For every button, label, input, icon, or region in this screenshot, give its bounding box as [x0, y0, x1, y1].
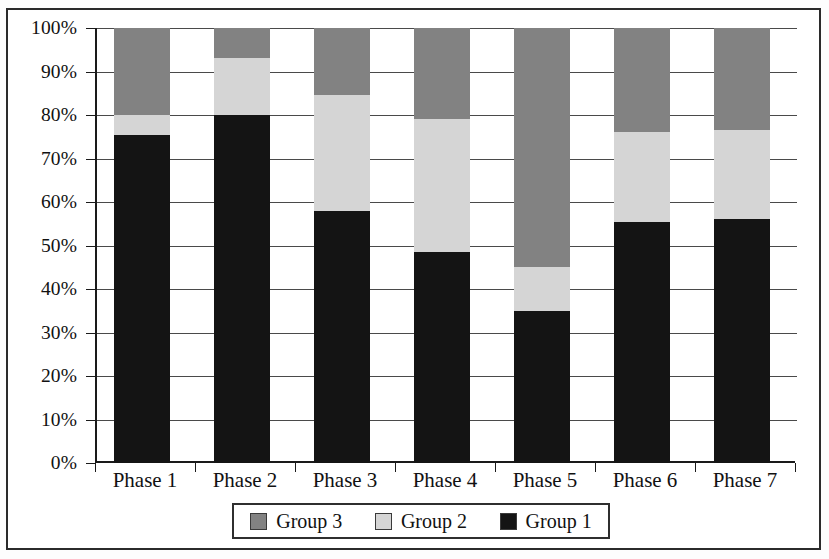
y-axis-tick-mark: [86, 333, 95, 334]
legend-item: Group 3: [250, 511, 342, 531]
y-axis-tick-mark: [86, 159, 95, 160]
legend-swatch-icon: [250, 513, 267, 530]
y-axis-tick-label: 60%: [7, 192, 77, 212]
y-axis-tick-label: 40%: [7, 279, 77, 299]
x-axis-tick-label: Phase 5: [495, 469, 595, 492]
bar-segment-group-1: [114, 135, 170, 463]
y-axis-tick-label: 80%: [7, 105, 77, 125]
bar-segment-group-2: [714, 130, 770, 219]
x-axis-tick-label: Phase 6: [595, 469, 695, 492]
chart-screenshot: 100%90%80%70%60%50%40%30%20%10%0%Phase 1…: [0, 0, 829, 559]
y-axis-tick-mark: [86, 289, 95, 290]
bar-segment-group-2: [514, 267, 570, 311]
y-axis-tick-label: 0%: [7, 453, 77, 473]
bar-segment-group-1: [214, 115, 270, 463]
legend-swatch-icon: [375, 513, 392, 530]
bar-stack: [514, 28, 570, 463]
bar-segment-group-2: [214, 58, 270, 115]
bar-segment-group-1: [414, 252, 470, 463]
chart-legend: Group 3Group 2Group 1: [232, 503, 610, 539]
y-axis-tick-mark: [86, 463, 95, 464]
bar-stack: [614, 28, 670, 463]
bar-segment-group-3: [514, 28, 570, 267]
y-axis-tick-label: 50%: [7, 236, 77, 256]
x-axis-tick-label: Phase 3: [295, 469, 395, 492]
x-axis-tick-label: Phase 1: [95, 469, 195, 492]
bar-stack: [414, 28, 470, 463]
x-axis-tick-label: Phase 2: [195, 469, 295, 492]
y-axis-tick-mark: [86, 202, 95, 203]
legend-item: Group 1: [500, 511, 592, 531]
bar-stack: [714, 28, 770, 463]
y-axis-tick-label: 70%: [7, 149, 77, 169]
bar-segment-group-2: [614, 132, 670, 221]
x-axis-tick-label: Phase 7: [695, 469, 795, 492]
y-axis-tick-label: 100%: [7, 18, 77, 38]
bar-segment-group-3: [614, 28, 670, 132]
bar-segment-group-1: [714, 219, 770, 463]
bar-stack: [314, 28, 370, 463]
bar-segment-group-1: [314, 211, 370, 463]
y-axis-tick-mark: [86, 376, 95, 377]
bar-segment-group-3: [314, 28, 370, 95]
bar-stack: [114, 28, 170, 463]
bar-segment-group-2: [414, 119, 470, 252]
x-axis-tick-label: Phase 4: [395, 469, 495, 492]
y-axis-tick-mark: [86, 28, 95, 29]
y-axis-tick-mark: [86, 246, 95, 247]
legend-label: Group 1: [526, 511, 592, 531]
bar-segment-group-3: [114, 28, 170, 115]
y-axis-tick-mark: [86, 115, 95, 116]
stacked-bar-chart: 100%90%80%70%60%50%40%30%20%10%0%Phase 1…: [0, 0, 829, 559]
legend-label: Group 3: [276, 511, 342, 531]
bar-stack: [214, 28, 270, 463]
y-axis-tick-mark: [86, 420, 95, 421]
bar-segment-group-1: [514, 311, 570, 463]
legend-label: Group 2: [401, 511, 467, 531]
x-axis-tick-mark: [795, 463, 796, 472]
bar-segment-group-3: [714, 28, 770, 130]
bar-segment-group-1: [614, 222, 670, 463]
bar-segment-group-3: [414, 28, 470, 119]
bar-segment-group-3: [214, 28, 270, 58]
bar-segment-group-2: [114, 115, 170, 135]
bar-segment-group-2: [314, 95, 370, 210]
y-axis-tick-label: 90%: [7, 62, 77, 82]
y-axis-tick-label: 30%: [7, 323, 77, 343]
legend-swatch-icon: [500, 513, 517, 530]
y-axis-tick-label: 10%: [7, 410, 77, 430]
y-axis-tick-label: 20%: [7, 366, 77, 386]
legend-item: Group 2: [375, 511, 467, 531]
y-axis-tick-mark: [86, 72, 95, 73]
